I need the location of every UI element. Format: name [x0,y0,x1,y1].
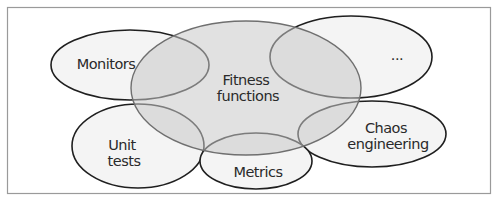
fitness-functions-label: Fitness functions [217,72,279,104]
ellipsis-label-line-1: ... [391,47,403,63]
monitors-label-line-1: Monitors [77,56,136,72]
monitors-label: Monitors [77,56,136,72]
fitness-functions-diagram: Monitors ... Fitness functions Unit test… [0,0,498,202]
ellipsis-label: ... [391,47,403,63]
unit-tests-label-line-1: Unit [108,137,136,153]
unit-tests-label: Unit tests [108,137,141,169]
chaos-engineering-label-line-1: Chaos [365,120,407,136]
metrics-label-line-1: Metrics [233,164,282,180]
fitness-functions-label-line-2: functions [217,88,279,104]
unit-tests-label-line-2: tests [108,153,141,169]
fitness-functions-label-line-1: Fitness [223,72,270,88]
chaos-engineering-label-line-2: engineering [347,136,428,152]
metrics-label: Metrics [233,164,282,180]
